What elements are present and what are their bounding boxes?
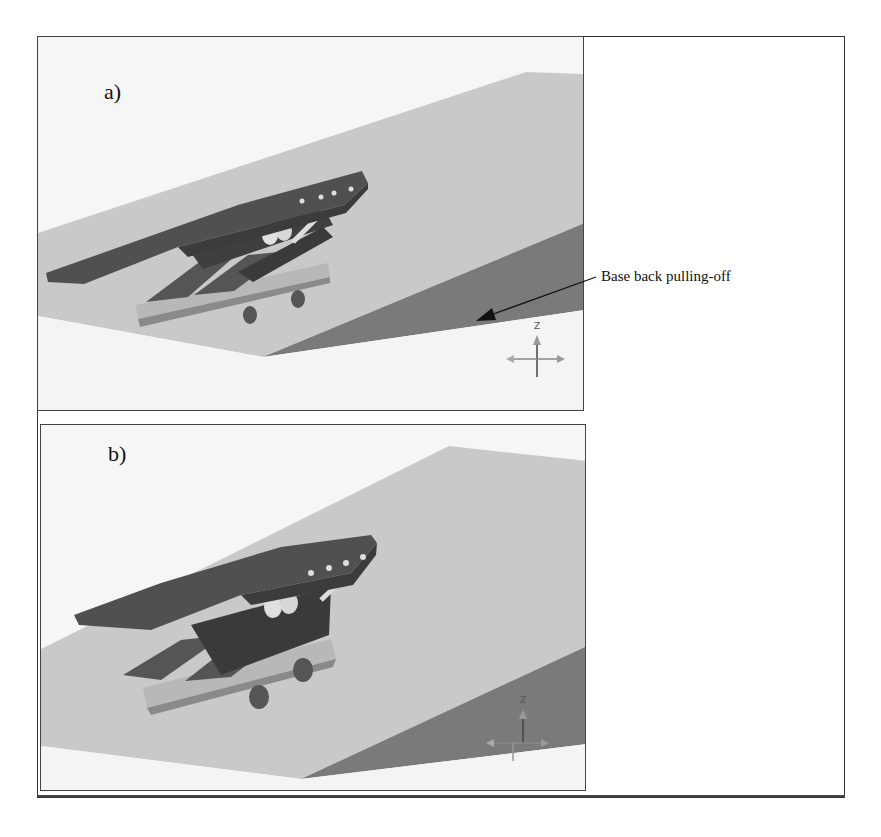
wheel	[291, 290, 305, 308]
panel-label-a: a)	[104, 79, 121, 105]
svg-text:Z: Z	[520, 695, 526, 705]
panel-label-b: b)	[108, 441, 126, 467]
annotation-label: Base back pulling-off	[601, 268, 731, 285]
frame-divider	[37, 795, 845, 797]
panel-a: Z a)	[37, 36, 584, 411]
wheel	[249, 685, 269, 709]
wheel	[243, 306, 257, 324]
panel-b: Z b)	[40, 424, 586, 791]
panel-b-render: Z	[41, 425, 586, 791]
wheel	[293, 658, 313, 682]
svg-text:Z: Z	[534, 321, 540, 331]
